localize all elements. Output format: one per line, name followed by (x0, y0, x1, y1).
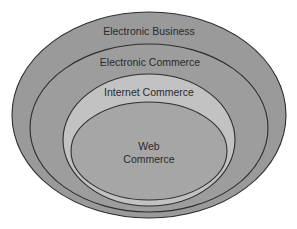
label-web-commerce-line2: Commerce (123, 153, 175, 165)
label-electronic-commerce: Electronic Commerce (100, 56, 201, 68)
label-electronic-business: Electronic Business (103, 25, 195, 37)
ecommerce-nested-diagram: Electronic Business Electronic Commerce … (0, 0, 297, 229)
label-internet-commerce: Internet Commerce (104, 86, 194, 98)
layer-web-commerce: Web Commerce (71, 102, 227, 200)
label-web-commerce-line1: Web (138, 140, 160, 152)
